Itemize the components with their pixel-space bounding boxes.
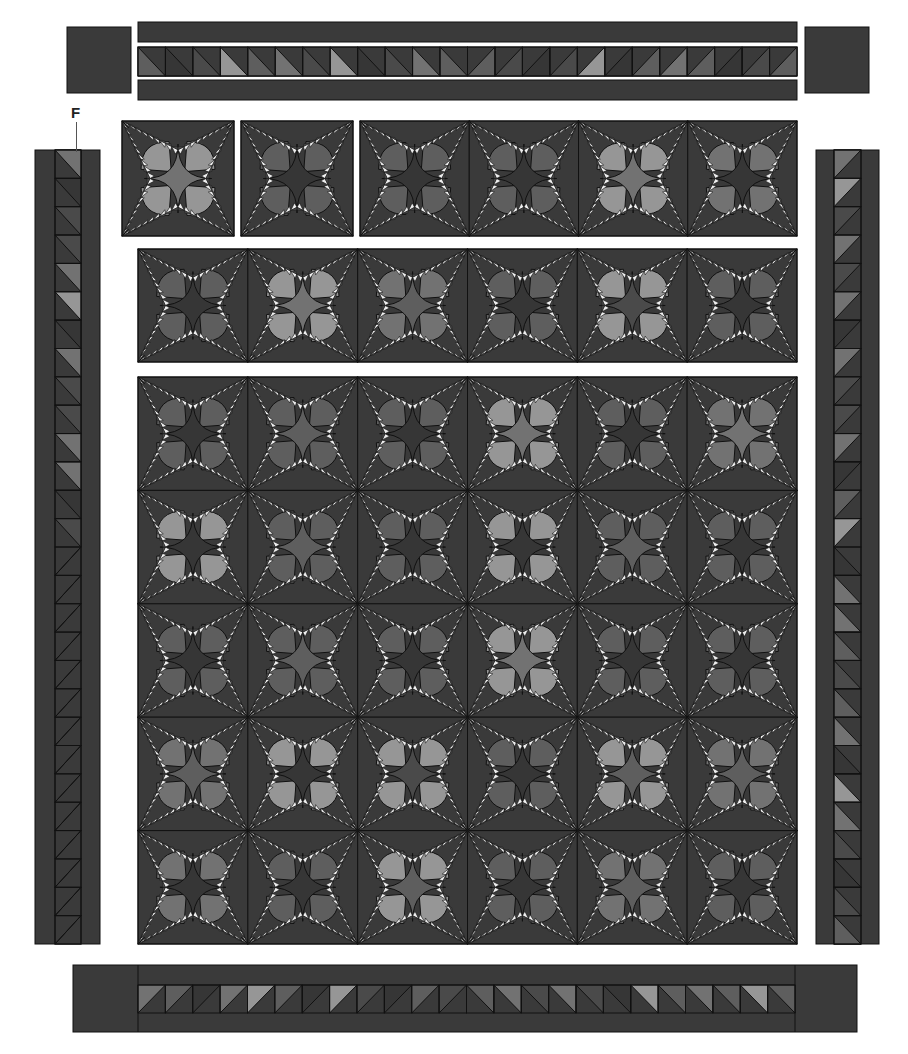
star-block [687, 249, 797, 362]
star-block [360, 121, 469, 236]
star-block [468, 831, 578, 944]
corner-square [805, 27, 869, 93]
star-block [248, 490, 358, 603]
star-block [468, 377, 578, 490]
star-block [577, 604, 687, 717]
star-block [358, 377, 468, 490]
star-block [577, 831, 687, 944]
star-block [468, 490, 578, 603]
star-block [468, 604, 578, 717]
star-block [358, 717, 468, 830]
star-block [469, 121, 578, 236]
star-block [577, 377, 687, 490]
star-block [122, 121, 234, 236]
star-block [687, 831, 797, 944]
star-block [138, 377, 248, 490]
star-block [579, 121, 688, 236]
star-block [138, 604, 248, 717]
star-block [241, 121, 353, 236]
star-block [358, 490, 468, 603]
star-block [248, 249, 358, 362]
row-1 [122, 121, 797, 236]
quilt-diagram [0, 0, 908, 1054]
star-block [248, 717, 358, 830]
top-border [67, 22, 869, 100]
star-block [577, 717, 687, 830]
star-block [248, 604, 358, 717]
star-block [468, 249, 578, 362]
star-block [358, 604, 468, 717]
main-grid [138, 377, 797, 944]
label-leader-line [76, 122, 77, 152]
bottom-border [73, 965, 857, 1032]
star-block [138, 490, 248, 603]
star-block [138, 717, 248, 830]
star-block [138, 831, 248, 944]
star-block [687, 717, 797, 830]
star-block [358, 249, 468, 362]
left-border [35, 150, 100, 944]
border-strip [138, 80, 797, 100]
star-block [468, 717, 578, 830]
star-blocks [122, 121, 797, 944]
star-block [687, 377, 797, 490]
star-block [688, 121, 797, 236]
label-f: F [71, 104, 80, 121]
star-block [687, 604, 797, 717]
star-block [138, 249, 248, 362]
star-block [358, 831, 468, 944]
star-block [577, 490, 687, 603]
star-block [248, 831, 358, 944]
star-block [577, 249, 687, 362]
corner-square [67, 27, 131, 93]
star-block [248, 377, 358, 490]
star-block [687, 490, 797, 603]
row-2 [138, 249, 797, 362]
right-border [816, 150, 879, 944]
border-strip [138, 22, 797, 42]
